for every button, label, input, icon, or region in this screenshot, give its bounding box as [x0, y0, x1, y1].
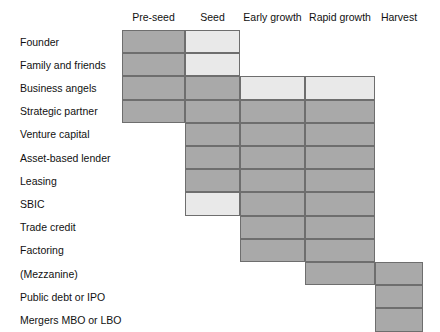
cell-business-angels-rapid-growth — [305, 76, 375, 99]
cell-factoring-early-growth — [240, 239, 305, 262]
cell-factoring-rapid-growth — [305, 239, 375, 262]
cell-venture-capital-rapid-growth — [305, 123, 375, 146]
cell-public-debt-or-ipo-harvest — [375, 285, 423, 308]
cell-trade-credit-early-growth — [240, 216, 305, 239]
cell-venture-capital-early-growth — [240, 123, 305, 146]
cell-strategic-partner-rapid-growth — [305, 100, 375, 123]
cell-founder-pre-seed — [122, 30, 185, 53]
cell-mezzanine-rapid-growth — [305, 262, 375, 285]
cell-leasing-rapid-growth — [305, 169, 375, 192]
cell-venture-capital-seed — [185, 123, 240, 146]
cell-mergers-mbo-or-lbo-harvest — [375, 308, 423, 331]
cell-mezzanine-harvest — [375, 262, 423, 285]
cell-asset-based-lender-early-growth — [240, 146, 305, 169]
cell-business-angels-seed — [185, 76, 240, 99]
cell-founder-seed — [185, 30, 240, 53]
cell-asset-based-lender-seed — [185, 146, 240, 169]
cell-family-and-friends-seed — [185, 53, 240, 76]
cell-business-angels-pre-seed — [122, 76, 185, 99]
cell-trade-credit-rapid-growth — [305, 216, 375, 239]
cell-leasing-early-growth — [240, 169, 305, 192]
cell-sbic-rapid-growth — [305, 192, 375, 215]
cell-sbic-seed — [185, 192, 240, 215]
cell-strategic-partner-pre-seed — [122, 100, 185, 123]
cell-business-angels-early-growth — [240, 76, 305, 99]
cell-family-and-friends-pre-seed — [122, 53, 185, 76]
cell-asset-based-lender-rapid-growth — [305, 146, 375, 169]
cell-sbic-early-growth — [240, 192, 305, 215]
cell-leasing-seed — [185, 169, 240, 192]
cell-strategic-partner-seed — [185, 100, 240, 123]
cell-strategic-partner-early-growth — [240, 100, 305, 123]
